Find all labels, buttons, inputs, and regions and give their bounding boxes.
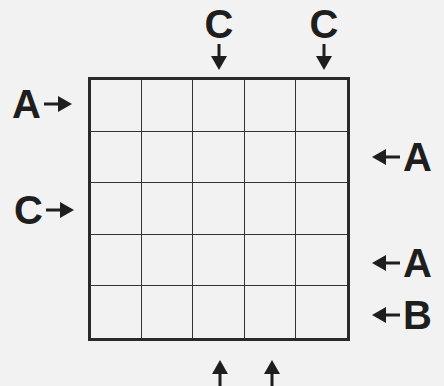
grid-cell-r5c1[interactable] bbox=[91, 286, 142, 338]
grid-cell-r1c4[interactable] bbox=[245, 80, 296, 132]
grid-cell-r4c3[interactable] bbox=[193, 235, 244, 287]
grid-cell-r2c4[interactable] bbox=[245, 132, 296, 184]
clue-letter: C bbox=[205, 4, 234, 44]
grid-cell-r4c4[interactable] bbox=[245, 235, 296, 287]
bottom-clue-col-4 bbox=[252, 360, 292, 386]
arrow-left-icon bbox=[372, 255, 400, 271]
arrow-left-icon bbox=[372, 149, 400, 165]
arrow-down-icon bbox=[211, 44, 227, 70]
top-clue-col-3: C bbox=[199, 4, 239, 70]
right-clue-row-4: A bbox=[372, 243, 432, 283]
grid-cell-r2c3[interactable] bbox=[193, 132, 244, 184]
grid-cell-r1c2[interactable] bbox=[142, 80, 193, 132]
arrow-right-icon bbox=[46, 202, 74, 218]
grid-cell-r4c2[interactable] bbox=[142, 235, 193, 287]
puzzle-grid bbox=[88, 77, 350, 341]
grid-cell-r3c3[interactable] bbox=[193, 183, 244, 235]
clue-letter: C bbox=[310, 4, 339, 44]
grid-cell-r4c1[interactable] bbox=[91, 235, 142, 287]
top-clue-col-5: C bbox=[304, 4, 344, 70]
grid-cell-r5c4[interactable] bbox=[245, 286, 296, 338]
grid-cell-r1c3[interactable] bbox=[193, 80, 244, 132]
clue-letter: B bbox=[403, 295, 432, 335]
arrow-down-icon bbox=[316, 44, 332, 70]
arrow-up-icon bbox=[264, 360, 280, 386]
right-clue-row-5: B bbox=[372, 295, 432, 335]
arrow-left-icon bbox=[372, 307, 400, 323]
clue-letter: A bbox=[403, 137, 432, 177]
grid-cell-r4c5[interactable] bbox=[296, 235, 347, 287]
grid-cell-r3c2[interactable] bbox=[142, 183, 193, 235]
grid-cell-r3c1[interactable] bbox=[91, 183, 142, 235]
grid-cell-r5c2[interactable] bbox=[142, 286, 193, 338]
grid-cell-r3c5[interactable] bbox=[296, 183, 347, 235]
arrow-up-icon bbox=[212, 360, 228, 386]
bottom-clue-col-3 bbox=[200, 360, 240, 386]
arrow-right-icon bbox=[44, 96, 72, 112]
grid-cell-r2c1[interactable] bbox=[91, 132, 142, 184]
grid-cell-r5c3[interactable] bbox=[193, 286, 244, 338]
clue-letter: A bbox=[12, 84, 41, 124]
grid-cell-r2c2[interactable] bbox=[142, 132, 193, 184]
left-clue-row-3: C bbox=[14, 190, 74, 230]
grid-cell-r5c5[interactable] bbox=[296, 286, 347, 338]
grid-cell-r2c5[interactable] bbox=[296, 132, 347, 184]
grid-cell-r1c1[interactable] bbox=[91, 80, 142, 132]
clue-letter: C bbox=[14, 190, 43, 230]
left-clue-row-1: A bbox=[12, 84, 72, 124]
right-clue-row-2: A bbox=[372, 137, 432, 177]
grid-cell-r3c4[interactable] bbox=[245, 183, 296, 235]
grid-cell-r1c5[interactable] bbox=[296, 80, 347, 132]
clue-letter: A bbox=[403, 243, 432, 283]
